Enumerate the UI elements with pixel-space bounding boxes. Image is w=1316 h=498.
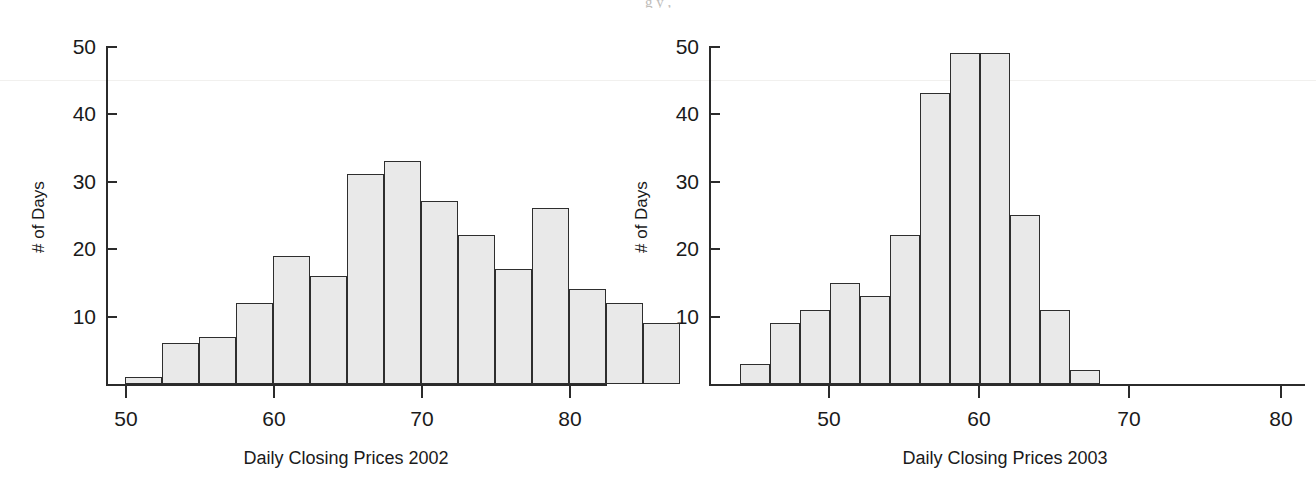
histogram-bar [162,343,199,384]
histogram-bar [236,303,273,384]
histogram-bar [950,53,980,384]
histogram-bar [770,323,800,384]
histogram-bar [1070,370,1100,384]
histogram-bar [860,296,890,384]
histogram-bar [569,289,606,384]
histogram-bar [495,269,532,384]
histogram-bar [800,310,830,384]
histogram-bar [273,256,310,384]
histogram-bar [458,235,495,384]
histogram-bar [980,53,1010,384]
panel-2003: 50 40 30 20 10 # of Days 50 60 70 80 Dai… [0,0,1316,498]
histogram-bar [830,283,860,384]
histogram-bar [606,303,643,384]
histogram-bar [920,93,950,384]
histogram-bar [740,364,770,384]
histogram-bar [1040,310,1070,384]
histogram-bar [310,276,347,384]
histogram-bar [1010,215,1040,384]
histogram-bar [125,377,162,384]
histogram-bar [347,174,384,384]
histogram-bar [199,337,236,384]
histogram-bar [890,235,920,384]
histogram-bar [421,201,458,384]
histogram-bar [532,208,569,384]
bars-2003 [0,0,1316,498]
histogram-bar [643,323,680,384]
histogram-figure: g y , 50 40 30 20 10 # of Days [0,0,1316,498]
histogram-bar [384,161,421,384]
